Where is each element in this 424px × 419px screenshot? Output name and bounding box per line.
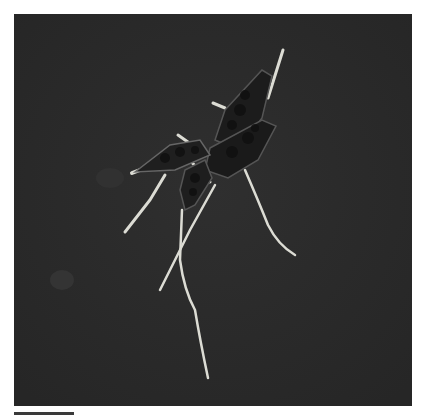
debris (50, 270, 74, 290)
micrograph (14, 14, 412, 406)
scale-bar (14, 412, 74, 415)
micrograph-panel (14, 14, 412, 406)
